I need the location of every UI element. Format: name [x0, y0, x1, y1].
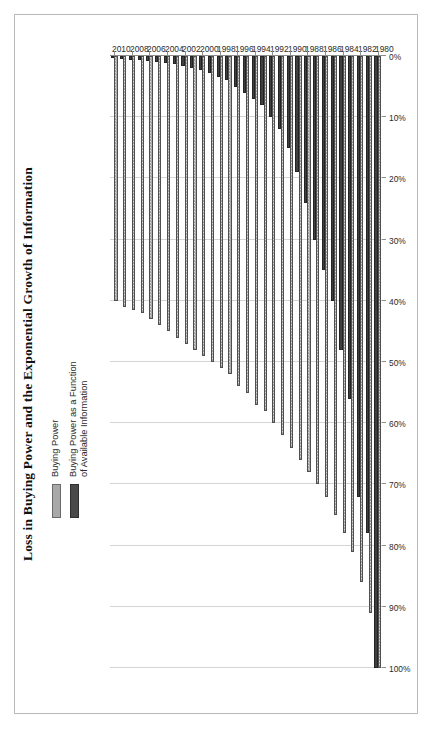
category-tickmark	[272, 51, 273, 56]
bar-buying-power-2000	[202, 56, 205, 356]
category-tickmark	[114, 51, 115, 56]
value-tick-label: 60%	[389, 419, 406, 429]
category-tickmark	[167, 51, 168, 56]
bar-buying-power-1983	[351, 56, 354, 552]
category-tickmark	[149, 51, 150, 56]
figure-border: Loss in Buying Power and the Exponential…	[14, 14, 418, 714]
bar-group-2004	[164, 56, 170, 668]
category-tickmark	[360, 51, 361, 56]
bar-group-2006	[146, 56, 152, 668]
bar-group-1987	[313, 56, 319, 668]
value-tick-label: 70%	[389, 480, 406, 490]
bar-buying-power-2004	[167, 56, 170, 331]
rotated-chart-canvas: Loss in Buying Power and the Exponential…	[14, 14, 418, 714]
bar-group-1989	[295, 56, 301, 668]
legend-item-buying-power-information: Buying Power as a Function of Available …	[68, 228, 90, 518]
value-tick-label: 90%	[389, 603, 406, 613]
bar-buying-power-2009	[123, 56, 126, 307]
bar-group-2000	[199, 56, 205, 668]
bar-group-1997	[225, 56, 231, 668]
value-tick-label: 100%	[389, 664, 410, 674]
bar-group-1993	[260, 56, 266, 668]
bar-buying-power-1985	[334, 56, 337, 515]
value-tickmark	[382, 483, 386, 484]
value-tickmark	[382, 177, 386, 178]
bar-buying-power-1998	[220, 56, 223, 368]
category-tickmark	[307, 51, 308, 56]
bar-group-1994	[252, 56, 258, 668]
category-tickmark	[237, 51, 238, 56]
value-tickmark	[382, 239, 386, 240]
bar-buying-power-2008	[132, 56, 135, 310]
bar-group-1986	[322, 56, 328, 668]
bar-buying-power-1982	[360, 56, 363, 582]
bar-buying-power-1992	[272, 56, 275, 423]
bar-group-1990	[287, 56, 293, 668]
bar-buying-power-1999	[211, 56, 214, 362]
bar-group-1981	[366, 56, 372, 668]
value-tickmark	[382, 55, 386, 56]
legend-swatch-buying-power-information	[70, 484, 79, 518]
bar-group-2001	[190, 56, 196, 668]
bar-group-2009	[120, 56, 126, 668]
bar-buying-power-1996	[237, 56, 240, 386]
bar-buying-power-2002	[185, 56, 188, 344]
bar-group-1999	[208, 56, 214, 668]
bar-buying-power-2006	[149, 56, 152, 319]
bar-buying-power-2003	[176, 56, 179, 338]
value-tickmark	[382, 300, 386, 301]
bar-buying-power-2010	[114, 56, 117, 301]
bar-group-1992	[269, 56, 275, 668]
value-tickmark	[382, 606, 386, 607]
value-tickmark	[382, 361, 386, 362]
value-tickmark	[382, 545, 386, 546]
value-tickmark	[382, 116, 386, 117]
category-tickmark	[185, 51, 186, 56]
bar-group-1988	[304, 56, 310, 668]
bar-buying-power-1993	[264, 56, 267, 411]
bar-group-1995	[243, 56, 249, 668]
bar-group-2010	[111, 56, 117, 668]
bar-group-1984	[339, 56, 345, 668]
bar-group-1998	[217, 56, 223, 668]
value-tickmark	[382, 667, 386, 668]
bar-group-2005	[155, 56, 161, 668]
value-tick-label: 50%	[389, 358, 406, 368]
value-tick-label: 80%	[389, 542, 406, 552]
bar-group-1996	[234, 56, 240, 668]
category-tickmark	[220, 51, 221, 56]
bar-group-1980	[374, 56, 380, 668]
bar-buying-power-1981	[369, 56, 372, 613]
bar-group-2008	[129, 56, 135, 668]
category-tickmark	[343, 51, 344, 56]
bar-buying-power-1986	[325, 56, 328, 497]
bar-buying-power-1991	[281, 56, 284, 435]
category-tickmark	[325, 51, 326, 56]
category-tickmark	[378, 51, 379, 56]
legend-label-buying-power: Buying Power	[50, 420, 61, 477]
value-tick-label: 10%	[389, 113, 406, 123]
plot-area: 100%90%80%70%60%50%40%30%20%10%0%1980198…	[110, 56, 382, 668]
bar-buying-power-1997	[228, 56, 231, 374]
bar-buying-power-2001	[193, 56, 196, 350]
bar-buying-power-1994	[255, 56, 258, 405]
category-tickmark	[132, 51, 133, 56]
bar-group-1982	[357, 56, 363, 668]
bar-group-2007	[138, 56, 144, 668]
legend-item-buying-power: Buying Power	[50, 228, 61, 518]
chart-legend: Buying Power Buying Power as a Function …	[50, 228, 97, 518]
bar-buying-power-2007	[141, 56, 144, 313]
bar-group-1985	[331, 56, 337, 668]
value-tick-label: 20%	[389, 174, 406, 184]
value-tick-label: 40%	[389, 297, 406, 307]
bar-buying-power-1990	[290, 56, 293, 448]
chart-title: Loss in Buying Power and the Exponential…	[20, 14, 36, 714]
bar-buying-power-2005	[158, 56, 161, 325]
bar-group-2002	[181, 56, 187, 668]
bar-group-1983	[348, 56, 354, 668]
legend-swatch-buying-power	[52, 484, 61, 518]
category-tickmark	[290, 51, 291, 56]
value-tick-label: 30%	[389, 236, 406, 246]
legend-label-buying-power-information: Buying Power as a Function of Available …	[68, 361, 90, 477]
bar-buying-power-1984	[343, 56, 346, 533]
